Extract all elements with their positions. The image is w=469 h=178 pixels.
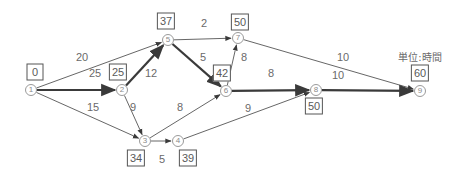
edge-duration-label: 15 [87, 102, 99, 113]
edge-7-9 [244, 40, 414, 89]
earliest-time-box: 50 [305, 98, 323, 115]
edge-duration-label: 20 [76, 52, 88, 63]
unit-label: 単位:時間 [398, 49, 441, 64]
edge-3-6 [150, 95, 220, 138]
event-node-8: 8 [310, 84, 322, 96]
edge-4-8 [184, 92, 310, 138]
earliest-time-box: 37 [157, 13, 175, 30]
edge-duration-label: 10 [332, 70, 344, 81]
edge-duration-label: 2 [201, 18, 207, 29]
earliest-time-box: 25 [109, 64, 127, 81]
earliest-time-box: 42 [213, 65, 231, 82]
edge-6-8-critical [232, 90, 309, 91]
event-node-7: 7 [232, 32, 244, 44]
earliest-time-box: 0 [27, 64, 44, 81]
event-node-2: 2 [116, 84, 128, 96]
edge-5-7 [174, 38, 231, 40]
edge-2-5-critical [126, 45, 163, 85]
edge-duration-label: 8 [177, 102, 183, 113]
edge-duration-label: 5 [200, 52, 206, 63]
earliest-time-box: 39 [179, 150, 197, 167]
event-node-1: 1 [25, 84, 37, 96]
edge-duration-label: 25 [89, 68, 101, 79]
event-node-4: 4 [172, 135, 184, 147]
event-node-3: 3 [139, 135, 151, 147]
edge-1-3 [36, 92, 138, 138]
edge-1-5 [37, 42, 162, 88]
edge-duration-label: 9 [130, 102, 136, 113]
event-node-5: 5 [162, 34, 174, 46]
edge-duration-label: 5 [159, 154, 165, 165]
edge-duration-label: 8 [268, 68, 274, 79]
edge-duration-label: 9 [245, 103, 251, 114]
event-node-9: 9 [414, 85, 426, 97]
event-node-6: 6 [220, 85, 232, 97]
earliest-time-box: 50 [231, 14, 249, 31]
earliest-time-box: 34 [127, 150, 145, 167]
earliest-time-box: 60 [411, 65, 429, 82]
edge-duration-label: 10 [337, 52, 349, 63]
edge-duration-label: 12 [145, 68, 157, 79]
edge-duration-label: 8 [241, 52, 247, 63]
edge-8-9-critical [322, 90, 413, 91]
